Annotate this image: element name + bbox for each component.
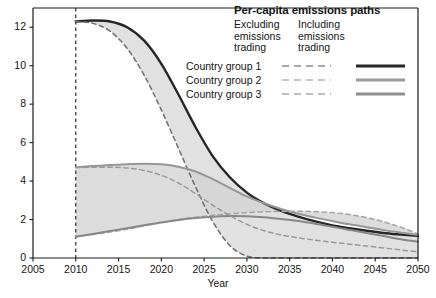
- y-tick-label-0: 0: [4, 251, 26, 263]
- x-tick-label-2040: 2040: [312, 263, 352, 275]
- y-tick-label-12: 12: [4, 20, 26, 32]
- y-tick-label-2: 2: [4, 213, 26, 225]
- x-tick-label-2020: 2020: [141, 263, 181, 275]
- y-tick-label-8: 8: [4, 97, 26, 109]
- x-tick-label-2015: 2015: [99, 263, 139, 275]
- x-tick-label-2035: 2035: [270, 263, 310, 275]
- x-tick-label-2005: 2005: [13, 263, 53, 275]
- y-tick-label-10: 10: [4, 59, 26, 71]
- x-tick-label-2010: 2010: [56, 263, 96, 275]
- x-tick-label-2030: 2030: [227, 263, 267, 275]
- emissions-chart-svg: [0, 0, 436, 298]
- y-tick-label-4: 4: [4, 174, 26, 186]
- chart-container: Per-capita emissions paths Excluding emi…: [0, 0, 436, 298]
- x-tick-label-2025: 2025: [184, 263, 224, 275]
- y-tick-label-6: 6: [4, 136, 26, 148]
- x-axis-title: Year: [0, 277, 436, 289]
- x-tick-label-2045: 2045: [355, 263, 395, 275]
- x-tick-label-2050: 2050: [398, 263, 436, 275]
